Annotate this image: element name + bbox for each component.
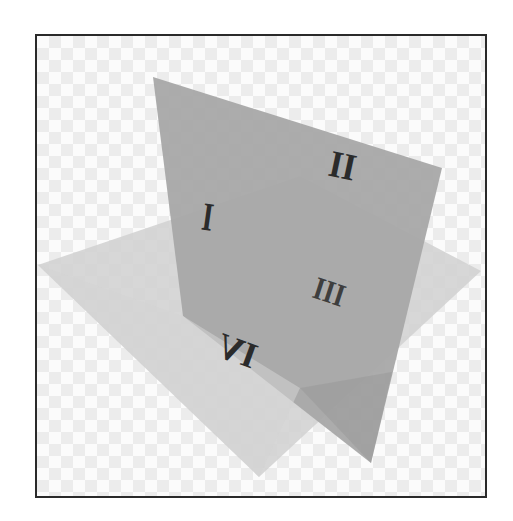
planes-diagram: I II III IV	[0, 0, 513, 521]
